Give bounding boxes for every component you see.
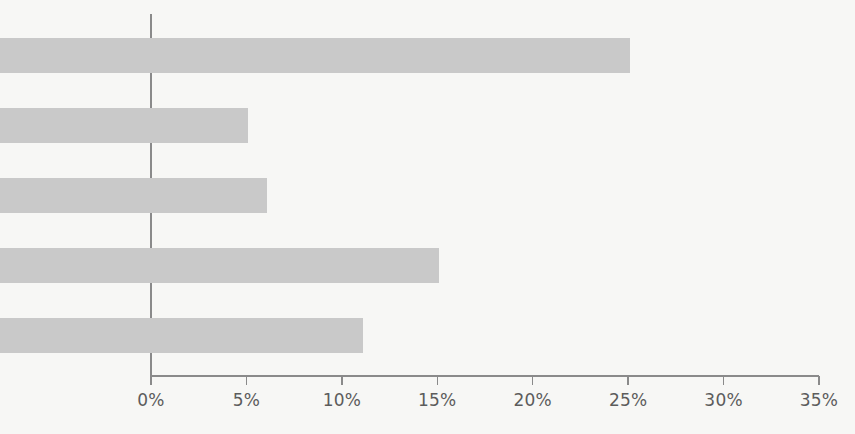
x-tick-mark <box>341 376 343 385</box>
x-tick-label: 0% <box>137 390 164 410</box>
bar-nova-zelandia <box>0 318 363 353</box>
bar-eua <box>0 38 630 73</box>
bar-chart: EUA Reino Unido Canadá Austrália Nova Ze… <box>0 0 855 434</box>
bar-row <box>0 318 855 353</box>
x-tick-label: 5% <box>233 390 260 410</box>
bar-row <box>0 108 855 143</box>
x-tick-mark <box>818 376 820 385</box>
x-tick-label: 30% <box>704 390 742 410</box>
x-tick-label: 25% <box>609 390 647 410</box>
bar-row <box>0 178 855 213</box>
x-tick-mark <box>723 376 725 385</box>
x-tick-label: 35% <box>800 390 838 410</box>
x-tick-mark <box>437 376 439 385</box>
bar-row <box>0 38 855 73</box>
x-tick-mark <box>150 376 152 385</box>
x-tick-label: 10% <box>323 390 361 410</box>
bar-reino-unido <box>0 108 248 143</box>
x-tick-mark <box>246 376 248 385</box>
x-tick-label: 20% <box>514 390 552 410</box>
x-tick-label: 15% <box>418 390 456 410</box>
bar-row <box>0 248 855 283</box>
x-axis-line <box>151 375 819 377</box>
bar-canada <box>0 178 267 213</box>
x-tick-mark <box>532 376 534 385</box>
bar-australia <box>0 248 439 283</box>
x-tick-mark <box>627 376 629 385</box>
